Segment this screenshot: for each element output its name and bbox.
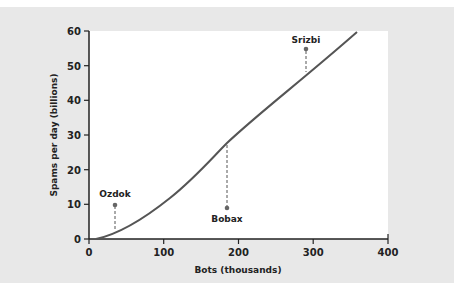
svg-text:0: 0	[86, 247, 93, 258]
svg-text:Srizbi: Srizbi	[292, 35, 321, 45]
svg-text:50: 50	[67, 61, 81, 72]
svg-text:Ozdok: Ozdok	[99, 189, 132, 199]
svg-text:200: 200	[228, 247, 249, 258]
x-axis-title: Bots (thousands)	[195, 265, 282, 275]
svg-text:0: 0	[74, 234, 81, 245]
svg-text:60: 60	[67, 26, 81, 37]
svg-text:Bobax: Bobax	[211, 214, 243, 224]
svg-text:40: 40	[67, 95, 81, 106]
chart: 0 10 20 30 40 50 60 0 100 200 300 400 Bo…	[0, 0, 459, 305]
svg-text:10: 10	[67, 199, 81, 210]
y-axis-title: Spams per day (billions)	[49, 73, 59, 196]
svg-text:300: 300	[303, 247, 324, 258]
svg-text:30: 30	[67, 130, 81, 141]
plot-area	[89, 31, 388, 239]
svg-text:400: 400	[378, 247, 399, 258]
svg-text:100: 100	[153, 247, 174, 258]
svg-text:20: 20	[67, 165, 81, 176]
y-tick-labels: 0 10 20 30 40 50 60	[67, 26, 81, 245]
x-tick-labels: 0 100 200 300 400	[86, 247, 399, 258]
